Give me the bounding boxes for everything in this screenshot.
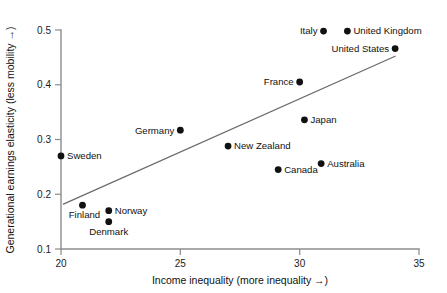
trend-line: [63, 56, 395, 204]
trend-line-group: [63, 56, 395, 204]
point-label: Denmark: [89, 226, 128, 237]
y-axis-ticks: 0.10.20.30.40.5: [37, 25, 61, 255]
point-label: United States: [332, 43, 390, 54]
x-tick-label: 25: [175, 258, 187, 269]
point-marker[interactable]: [105, 218, 112, 225]
point-label: Norway: [115, 205, 148, 216]
point-label: Australia: [327, 158, 365, 169]
y-axis: 0.10.20.30.40.5: [37, 25, 61, 255]
point-marker[interactable]: [344, 28, 351, 35]
data-point[interactable]: France: [264, 76, 303, 87]
x-tick-label: 30: [294, 258, 306, 269]
data-point[interactable]: United States: [332, 43, 399, 54]
data-point[interactable]: Italy: [300, 25, 327, 36]
y-tick-label: 0.1: [37, 244, 51, 255]
point-label: Italy: [300, 25, 318, 36]
point-marker[interactable]: [177, 127, 184, 134]
data-point[interactable]: Sweden: [58, 150, 102, 161]
x-axis: 20253035: [55, 249, 425, 269]
data-points-group: SwedenFinlandNorwayDenmarkGermanyNew Zea…: [58, 25, 422, 236]
data-point[interactable]: Germany: [135, 125, 184, 136]
point-marker[interactable]: [296, 79, 303, 86]
y-tick-label: 0.3: [37, 134, 51, 145]
data-point[interactable]: Finland: [69, 202, 100, 220]
y-tick-label: 0.2: [37, 189, 51, 200]
point-marker[interactable]: [301, 116, 308, 123]
chart-canvas: 0.10.20.30.40.5 20253035 SwedenFinlandNo…: [0, 0, 447, 293]
point-marker[interactable]: [392, 45, 399, 52]
x-axis-title: Income inequality (more inequality →): [152, 274, 328, 286]
y-tick-label: 0.5: [37, 25, 51, 36]
y-tick-label: 0.4: [37, 79, 51, 90]
data-point[interactable]: Denmark: [89, 218, 128, 236]
point-marker[interactable]: [225, 143, 232, 150]
point-marker[interactable]: [320, 28, 327, 35]
y-axis-title: Generational earnings elasticity (less m…: [4, 26, 16, 253]
point-label: France: [264, 76, 294, 87]
point-marker[interactable]: [58, 153, 65, 160]
data-point[interactable]: Australia: [318, 158, 365, 169]
scatter-chart-figure: 0.10.20.30.40.5 20253035 SwedenFinlandNo…: [0, 0, 447, 293]
point-label: Sweden: [67, 150, 102, 161]
x-tick-label: 20: [55, 258, 67, 269]
data-point[interactable]: Canada: [275, 164, 319, 175]
point-label: Japan: [310, 114, 336, 125]
point-marker[interactable]: [79, 202, 86, 209]
data-point[interactable]: New Zealand: [225, 140, 291, 151]
point-marker[interactable]: [275, 166, 282, 173]
point-marker[interactable]: [105, 207, 112, 214]
data-point[interactable]: Japan: [301, 114, 337, 125]
data-point[interactable]: Norway: [105, 205, 147, 216]
point-label: Canada: [284, 164, 318, 175]
point-label: Germany: [135, 125, 175, 136]
x-axis-ticks: 20253035: [55, 249, 425, 269]
point-label: Finland: [69, 209, 100, 220]
data-point[interactable]: United Kingdom: [344, 25, 422, 36]
point-label: United Kingdom: [353, 25, 421, 36]
x-tick-label: 35: [413, 258, 425, 269]
point-label: New Zealand: [234, 140, 291, 151]
point-marker[interactable]: [318, 160, 325, 167]
